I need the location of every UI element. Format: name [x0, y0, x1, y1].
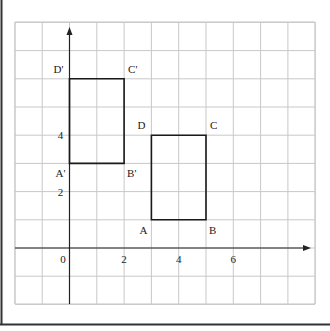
x-tick-label: 6 — [231, 253, 237, 265]
vertex-label: C' — [128, 63, 137, 75]
vertex-label: B — [209, 224, 216, 236]
vertex-label: A' — [56, 167, 66, 179]
shapes: ABCDA'B'C'D' — [54, 63, 218, 236]
x-tick-label: 0 — [60, 253, 66, 265]
figure: 024624 ABCDA'B'C'D' — [0, 0, 330, 331]
y-tick-label: 2 — [58, 186, 64, 198]
vertex-label: D — [137, 119, 145, 131]
vertex-label: A — [139, 224, 147, 236]
coordinate-grid-figure: 024624 ABCDA'B'C'D' — [0, 0, 330, 331]
vertex-label: B' — [127, 167, 136, 179]
vertex-label: C — [210, 119, 217, 131]
vertex-label: D' — [54, 63, 64, 75]
y-axis-arrow-icon — [67, 27, 73, 35]
y-tick-label: 4 — [58, 129, 64, 141]
x-tick-label: 4 — [176, 253, 182, 265]
x-tick-label: 2 — [121, 253, 127, 265]
x-axis-arrow-icon — [303, 245, 311, 251]
tick-labels: 024624 — [58, 129, 237, 265]
